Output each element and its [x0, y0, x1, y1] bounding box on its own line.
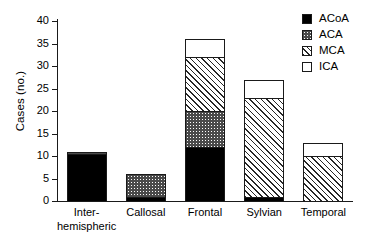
- bar-segment-acoa[interactable]: [67, 154, 107, 202]
- y-axis-tick-label: 30: [37, 59, 49, 72]
- bar-segment-aca[interactable]: [67, 152, 107, 155]
- y-axis-tick-label: 35: [37, 37, 49, 50]
- legend-swatch-icon: [302, 62, 312, 72]
- stacked-bar-chart: Cases (no.) 4035302520151050 Inter- hemi…: [0, 0, 373, 237]
- y-axis-tick-label: 15: [37, 127, 49, 140]
- legend-swatch-icon: [302, 46, 312, 56]
- legend-swatch-icon: [302, 14, 312, 24]
- bar-group[interactable]: [126, 175, 166, 202]
- bar-segment-mca[interactable]: [185, 57, 225, 112]
- bar-segment-ica[interactable]: [303, 143, 343, 158]
- x-axis-category-label: Callosal: [116, 206, 175, 220]
- x-axis-category-label: Temporal: [294, 206, 353, 220]
- legend-item-mca[interactable]: MCA: [302, 43, 370, 58]
- bar-group[interactable]: [244, 81, 284, 203]
- x-axis-category-label: Inter- hemispheric: [57, 206, 116, 233]
- y-axis-tick-label: 5: [43, 172, 49, 185]
- legend-item-label: ACoA: [319, 12, 349, 25]
- bar-segment-ica[interactable]: [244, 80, 284, 99]
- legend-item-label: ACA: [319, 28, 343, 41]
- bar-segment-acoa[interactable]: [185, 147, 225, 202]
- chart-legend: ACoAACAMCAICA: [302, 11, 370, 75]
- bar-segment-mca[interactable]: [244, 98, 284, 198]
- bar-group[interactable]: [67, 153, 107, 203]
- bar-group[interactable]: [303, 144, 343, 203]
- legend-item-label: ICA: [319, 60, 338, 73]
- y-axis-title: Cases (no.): [14, 41, 26, 161]
- legend-swatch-icon: [302, 30, 312, 40]
- legend-item-acoa[interactable]: ACoA: [302, 11, 370, 26]
- bar-segment-aca[interactable]: [126, 174, 166, 198]
- y-axis-tick-label: 25: [37, 82, 49, 95]
- bar-group[interactable]: [185, 40, 225, 202]
- x-axis-category-label: Frontal: [175, 206, 234, 220]
- y-axis-tick-label: 20: [37, 104, 49, 117]
- legend-item-label: MCA: [319, 44, 345, 57]
- y-axis-tick-label: 0: [43, 194, 49, 207]
- legend-item-ica[interactable]: ICA: [302, 59, 370, 74]
- legend-item-aca[interactable]: ACA: [302, 27, 370, 42]
- y-axis-tick-label: 10: [37, 149, 49, 162]
- bar-segment-aca[interactable]: [185, 111, 225, 148]
- bar-segment-mca[interactable]: [303, 156, 343, 202]
- x-axis-category-label: Sylvian: [235, 206, 294, 220]
- bar-segment-ica[interactable]: [185, 39, 225, 58]
- y-axis-tick-label: 40: [37, 14, 49, 27]
